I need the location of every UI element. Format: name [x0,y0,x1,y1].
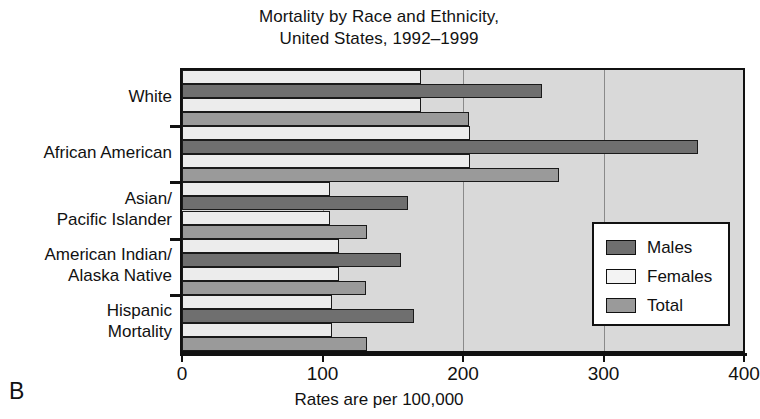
bar-total-group-3 [182,281,366,295]
bar-females-group-2 [182,211,330,225]
bar-females-group-4 [182,323,332,337]
x-tick-label-0: 0 [177,363,188,385]
x-tick-400 [743,353,745,362]
category-label-0: White [129,86,172,107]
legend-label-males: Males [647,238,692,258]
bar-males-group-4 [182,309,414,323]
bar-males-group-2 [182,196,408,210]
bar-total-group-2 [182,225,367,239]
legend-swatch-total-icon [606,298,636,313]
category-label-1: African American [44,142,173,163]
legend-label-total: Total [647,296,683,316]
category-label-3-line-0: American Indian/ [44,244,172,265]
bar-females-group-3 [182,267,339,281]
chart-title: Mortality by Race and Ethnicity, United … [0,6,758,50]
y-tick-3 [170,238,180,241]
x-tick-label-300: 300 [588,363,620,385]
legend-label-females: Females [647,267,712,287]
category-label-1-line-0: African American [44,142,173,163]
bar-females-group-1 [182,154,470,168]
legend-swatch-females-icon [606,269,636,284]
x-tick-label-400: 400 [728,363,760,385]
bar-total-group-0 [182,112,469,126]
x-tick-200 [462,353,464,362]
category-label-2-line-0: Asian/ [57,188,172,209]
legend-item-females: Females [606,262,728,291]
bar-females-group-2 [182,182,330,196]
chart-title-line-1: Mortality by Race and Ethnicity, [259,7,499,26]
bar-total-group-4 [182,337,367,351]
category-label-2: Asian/Pacific Islander [57,188,172,230]
bar-males-group-0 [182,84,542,98]
x-tick-0 [181,353,183,362]
bar-females-group-1 [182,126,470,140]
category-label-4-line-0: Hispanic [107,300,172,321]
legend: Males Females Total [592,222,730,326]
category-label-4: HispanicMortality [107,300,172,342]
bar-females-group-0 [182,70,421,84]
category-label-4-line-1: Mortality [107,321,172,342]
category-label-2-line-1: Pacific Islander [57,209,172,230]
chart-title-line-2: United States, 1992–1999 [0,28,758,50]
y-tick-2 [170,181,180,184]
bar-females-group-3 [182,239,339,253]
category-label-0-line-0: White [129,86,172,107]
legend-item-total: Total [606,291,728,320]
bar-males-group-1 [182,140,698,154]
x-axis-label: Rates are per 100,000 [0,390,758,410]
bar-males-group-3 [182,253,401,267]
legend-item-males: Males [606,233,728,262]
x-tick-100 [322,353,324,362]
legend-swatch-males-icon [606,240,636,255]
bar-females-group-0 [182,98,421,112]
x-tick-300 [603,353,605,362]
y-tick-1 [170,125,180,128]
x-tick-label-200: 200 [447,363,479,385]
category-label-3-line-1: Alaska Native [44,265,172,286]
category-label-3: American Indian/Alaska Native [44,244,172,286]
bar-total-group-1 [182,168,559,182]
bar-females-group-4 [182,295,332,309]
y-tick-4 [170,294,180,297]
x-tick-label-100: 100 [307,363,339,385]
